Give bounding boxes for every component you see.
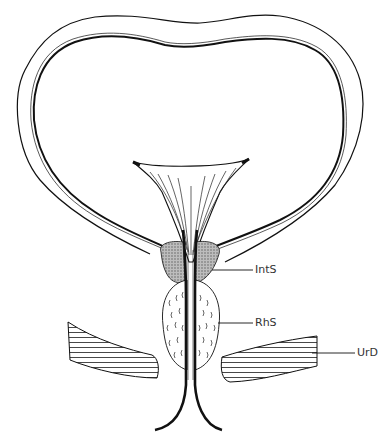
urogenital-diaphragm-right bbox=[221, 336, 317, 382]
diagram-canvas bbox=[0, 0, 383, 442]
rhabdosphincter bbox=[162, 280, 219, 370]
label-ints: IntS bbox=[255, 264, 277, 276]
label-urd: UrD bbox=[357, 347, 378, 359]
internal-sphincter bbox=[161, 241, 185, 282]
label-rhs: RhS bbox=[255, 317, 277, 329]
anatomy-diagram: IntS RhS UrD bbox=[0, 0, 383, 442]
urogenital-diaphragm-left bbox=[68, 322, 158, 378]
internal-sphincter-right bbox=[195, 241, 219, 282]
